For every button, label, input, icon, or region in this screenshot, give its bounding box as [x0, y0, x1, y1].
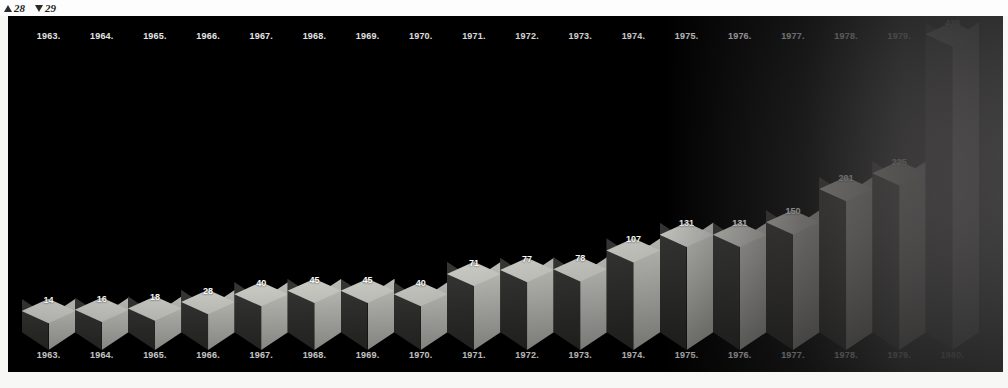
bar-1966: [181, 290, 235, 350]
top-year-label: 1968.: [303, 31, 327, 41]
bar-series: 1416182840454540717778107131131150201225…: [8, 16, 1003, 372]
bar-1970: [394, 282, 448, 350]
bottom-year-label: 1969.: [356, 350, 380, 360]
bar-value-label: 18: [150, 292, 160, 302]
bar-right-face: [899, 161, 926, 350]
top-year-label: 1965.: [143, 31, 167, 41]
bar-1972: [500, 258, 554, 350]
top-year-label: 1976.: [728, 31, 752, 41]
bar-1979: [872, 161, 926, 350]
bar-right-face: [952, 22, 979, 350]
bar-left-face: [872, 161, 899, 350]
bar-value-label: 201: [839, 173, 854, 183]
top-year-axis: 1963.1964.1965.1966.1967.1968.1969.1970.…: [8, 31, 1003, 45]
bottom-year-label: 1971.: [462, 350, 486, 360]
bar-1978: [819, 177, 873, 350]
bar-value-label: 40: [416, 278, 426, 288]
top-year-label: 1978.: [834, 31, 858, 41]
top-year-label: 1969.: [356, 31, 380, 41]
bar-value-label: 225: [892, 157, 907, 167]
bar-1967: [234, 282, 288, 350]
bar-1964: [75, 298, 129, 350]
top-year-label: 1966.: [196, 31, 220, 41]
top-year-label: 1971.: [462, 31, 486, 41]
page-marker-down[interactable]: 29: [35, 3, 56, 14]
page-marker-bar: 28 29: [0, 0, 1008, 16]
bottom-year-label: 1977.: [781, 350, 805, 360]
bottom-year-label: 1974.: [622, 350, 646, 360]
bottom-year-label: 1967.: [249, 350, 273, 360]
top-year-label: 1973.: [568, 31, 592, 41]
bar-value-label: 438: [945, 18, 960, 28]
page-marker-up[interactable]: 28: [4, 3, 25, 14]
bottom-year-label: 1970.: [409, 350, 433, 360]
bottom-year-label: 1976.: [728, 350, 752, 360]
bar-value-label: 45: [363, 275, 373, 285]
top-year-label: 1977.: [781, 31, 805, 41]
bar-value-label: 45: [309, 275, 319, 285]
bottom-year-label: 1980.: [941, 350, 965, 360]
bar-1965: [128, 296, 182, 350]
bar-1980: [925, 22, 979, 350]
top-year-label: 1967.: [249, 31, 273, 41]
bar-value-label: 107: [626, 234, 641, 244]
top-year-label: 1970.: [409, 31, 433, 41]
bottom-year-label: 1978.: [834, 350, 858, 360]
bottom-year-label: 1973.: [568, 350, 592, 360]
bar-value-label: 77: [522, 254, 532, 264]
triangle-up-icon: [4, 5, 12, 12]
bar-value-label: 40: [256, 278, 266, 288]
bottom-year-label: 1972.: [515, 350, 539, 360]
scanned-page: 1416182840454540717778107131131150201225…: [0, 16, 1008, 388]
bar-1969: [341, 279, 395, 350]
bar-value-label: 14: [44, 295, 54, 305]
bar-value-label: 16: [97, 294, 107, 304]
top-year-label: 1964.: [90, 31, 114, 41]
page-marker-up-label: 28: [14, 3, 25, 14]
top-year-label: 1972.: [515, 31, 539, 41]
bar-1975: [660, 222, 714, 350]
bar-value-label: 150: [785, 206, 800, 216]
bar-chart-panel: 1416182840454540717778107131131150201225…: [8, 16, 1003, 372]
triangle-down-icon: [35, 5, 43, 12]
bottom-year-label: 1979.: [887, 350, 911, 360]
bottom-year-axis: 1963.1964.1965.1966.1967.1968.1969.1970.…: [8, 350, 1003, 364]
bottom-year-label: 1963.: [37, 350, 61, 360]
bar-1974: [606, 238, 660, 350]
bar-value-label: 131: [732, 218, 747, 228]
top-year-label: 1975.: [675, 31, 699, 41]
bottom-year-label: 1965.: [143, 350, 167, 360]
page-marker-down-label: 29: [45, 3, 56, 14]
bar-left-face: [925, 22, 952, 350]
bottom-year-label: 1968.: [303, 350, 327, 360]
bar-value-label: 78: [575, 253, 585, 263]
bar-1977: [766, 210, 820, 350]
bar-left-face: [819, 177, 846, 350]
bottom-year-label: 1964.: [90, 350, 114, 360]
bottom-year-label: 1966.: [196, 350, 220, 360]
bar-value-label: 71: [469, 258, 479, 268]
bar-1971: [447, 262, 501, 350]
top-year-label: 1974.: [622, 31, 646, 41]
bar-right-face: [846, 177, 873, 350]
bar-1968: [287, 279, 341, 350]
bottom-year-label: 1975.: [675, 350, 699, 360]
top-year-label: 1979.: [887, 31, 911, 41]
bar-value-label: 28: [203, 286, 213, 296]
bar-value-label: 131: [679, 218, 694, 228]
bar-1973: [553, 257, 607, 350]
bar-1963: [22, 299, 76, 350]
top-year-label: 1963.: [37, 31, 61, 41]
bar-1976: [713, 222, 767, 350]
